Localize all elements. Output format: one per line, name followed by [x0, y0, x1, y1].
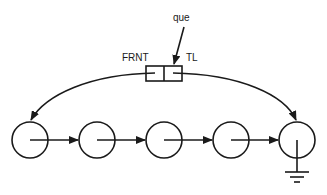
ground-null-icon — [285, 172, 309, 182]
node-2 — [79, 122, 145, 158]
que-pointer-arrow — [174, 27, 184, 64]
front-label: FRNT — [122, 52, 149, 63]
front-pointer-arrow — [31, 73, 155, 120]
que-label: que — [173, 12, 190, 23]
node-5 — [279, 122, 315, 182]
node-1 — [12, 122, 78, 158]
tail-label: TL — [186, 52, 198, 63]
node-3 — [146, 122, 212, 158]
tail-pointer-arrow — [173, 73, 296, 120]
queue-diagram: que FRNT TL — [0, 0, 327, 195]
node-4 — [213, 122, 278, 158]
